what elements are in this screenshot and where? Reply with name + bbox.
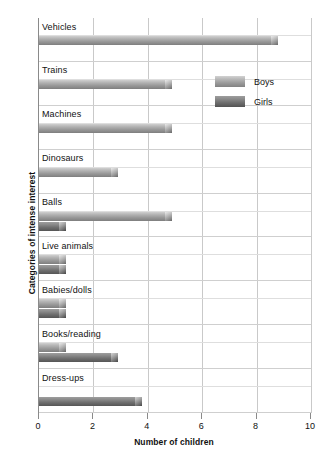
bar-end-cap: [59, 299, 66, 308]
category-label: Dress-ups: [39, 373, 84, 383]
bar-group: Vehicles: [39, 18, 311, 62]
bar-end-cap: [111, 168, 118, 177]
bar-boys: [39, 255, 66, 264]
x-tick-4: [147, 413, 148, 419]
label-row-separator: [39, 386, 311, 387]
bar-end-cap: [271, 36, 278, 45]
category-label-row: Dress-ups: [39, 369, 311, 386]
bar-boys: [39, 212, 172, 221]
x-tick-label-2: 2: [90, 421, 95, 431]
category-label: Balls: [39, 197, 62, 207]
category-label-row: Live animals: [39, 237, 311, 254]
x-tick-label-0: 0: [35, 421, 40, 431]
legend-swatch-girls: [215, 96, 245, 107]
bar-girls: [39, 265, 66, 274]
label-row-separator: [39, 342, 311, 343]
label-row-separator: [39, 167, 311, 168]
bar-end-cap: [165, 212, 172, 221]
x-tick-label-4: 4: [144, 421, 149, 431]
bar-group: Books/reading: [39, 325, 311, 369]
bar-girls: [39, 222, 66, 231]
legend-label-boys: Boys: [254, 77, 274, 87]
category-label-row: Balls: [39, 194, 311, 211]
horizontal-bar-chart: Categories of intense interest VehiclesT…: [0, 0, 333, 462]
category-label: Machines: [39, 109, 81, 119]
x-tick-label-8: 8: [253, 421, 258, 431]
bar-group: Dress-ups: [39, 369, 311, 413]
gridline-10: [311, 18, 312, 413]
bar-group: Balls: [39, 194, 311, 238]
category-label: Books/reading: [39, 329, 101, 339]
category-label: Vehicles: [39, 22, 76, 32]
category-label: Babies/dolls: [39, 285, 92, 295]
label-row-separator: [39, 35, 311, 36]
legend-item-girls: Girls: [215, 94, 311, 109]
x-tick-6: [201, 413, 202, 419]
bar-boys: [39, 343, 66, 352]
bar-boys: [39, 36, 278, 45]
bar-end-cap: [59, 255, 66, 264]
x-tick-8: [256, 413, 257, 419]
bar-end-cap: [165, 80, 172, 89]
category-label: Live animals: [39, 241, 93, 251]
bar-group: Babies/dolls: [39, 281, 311, 325]
label-row-separator: [39, 254, 311, 255]
bar-girls: [39, 353, 118, 362]
x-tick-label-6: 6: [199, 421, 204, 431]
bar-boys: [39, 80, 172, 89]
bar-end-cap: [59, 222, 66, 231]
bar-boys: [39, 124, 172, 133]
bar-boys: [39, 168, 118, 177]
bar-end-cap: [135, 397, 142, 406]
x-tick-0: [38, 413, 39, 419]
label-row-separator: [39, 123, 311, 124]
bar-girls: [39, 397, 142, 406]
bar-group: Dinosaurs: [39, 150, 311, 194]
x-axis-line: [38, 413, 310, 414]
label-row-separator: [39, 298, 311, 299]
legend: Boys Girls: [215, 74, 311, 114]
bar-end-cap: [165, 124, 172, 133]
bar-girls: [39, 309, 66, 318]
bar-end-cap: [59, 343, 66, 352]
label-row-separator: [39, 211, 311, 212]
y-axis-label: Categories of intense interest: [27, 113, 37, 353]
category-label-row: Books/reading: [39, 325, 311, 342]
category-label: Trains: [39, 65, 67, 75]
x-tick-10: [310, 413, 311, 419]
category-label-row: Vehicles: [39, 18, 311, 35]
x-tick-2: [92, 413, 93, 419]
category-label: Dinosaurs: [39, 153, 83, 163]
bar-end-cap: [59, 265, 66, 274]
bar-end-cap: [111, 353, 118, 362]
category-label-row: Babies/dolls: [39, 281, 311, 298]
category-label-row: Dinosaurs: [39, 150, 311, 167]
legend-item-boys: Boys: [215, 74, 311, 89]
bar-boys: [39, 299, 66, 308]
x-tick-label-10: 10: [305, 421, 315, 431]
bar-end-cap: [59, 309, 66, 318]
legend-label-girls: Girls: [254, 97, 273, 107]
bar-group: Live animals: [39, 237, 311, 281]
legend-swatch-boys: [215, 76, 245, 87]
x-axis-label: Number of children: [38, 437, 310, 447]
